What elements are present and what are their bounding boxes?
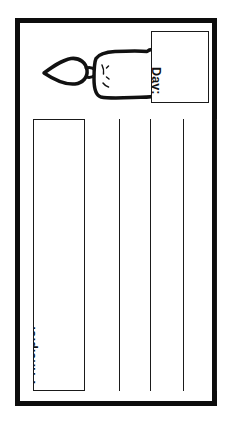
divider-line-4 — [216, 119, 217, 391]
divider-line-2 — [150, 119, 151, 391]
day-field[interactable]: Day: — [151, 31, 209, 103]
day-field-label: Day: — [151, 67, 163, 95]
divider-line-1 — [119, 119, 120, 391]
worksheet-body: Day: Principle: — [20, 23, 212, 401]
principle-field[interactable]: Principle: — [33, 119, 85, 391]
principle-field-label: Principle: — [33, 326, 38, 384]
worksheet-frame: Day: Principle: — [15, 18, 217, 406]
worksheet-page: Day: Principle: — [0, 0, 233, 428]
divider-line-3 — [183, 119, 184, 391]
